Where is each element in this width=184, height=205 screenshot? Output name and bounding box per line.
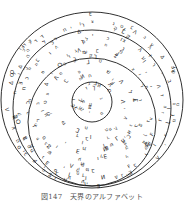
svg-text:ד: ד [32, 38, 38, 44]
svg-text:ⴷ: ⴷ [156, 84, 162, 89]
svg-text:נ: נ [128, 123, 133, 127]
svg-text:Ⴈ: Ⴈ [94, 54, 97, 60]
svg-text:ⴷ: ⴷ [132, 28, 139, 35]
svg-text:ח: ח [89, 102, 92, 107]
svg-text:ס: ס [15, 144, 22, 151]
svg-text:ה: ה [84, 181, 88, 187]
svg-text:כ: כ [24, 101, 30, 104]
svg-text:י: י [63, 164, 66, 170]
svg-text:ד: ד [81, 172, 85, 178]
svg-text:ל: ל [85, 36, 89, 42]
svg-text:ב: ב [142, 34, 147, 40]
svg-text:ח: ח [88, 72, 92, 78]
svg-text:ל: ל [99, 153, 103, 159]
svg-text:מ: מ [172, 119, 178, 123]
svg-text:ל: ל [124, 154, 129, 160]
svg-text:ו: ו [54, 144, 59, 150]
svg-text:י: י [69, 24, 72, 30]
figure-caption: 図147 天界のアルファベット [0, 191, 184, 201]
svg-text:ח: ח [104, 42, 108, 48]
svg-text:ד: ד [106, 135, 111, 142]
celestial-alphabet-diagram: יⵎⴷטצחכממיℲהΔצעוⵓבסⵓⵔפיⵎגוצלבה⅃ⵏנתⵍⵍɅעⵏⴹ… [0, 0, 184, 190]
svg-text:Δ: Δ [43, 81, 49, 86]
svg-text:Ʌ: Ʌ [53, 74, 60, 80]
svg-text:ק: ק [89, 53, 93, 58]
svg-text:ו: ו [97, 156, 99, 162]
svg-text:ב: ב [85, 136, 89, 142]
svg-text:ⴷ: ⴷ [118, 78, 125, 85]
svg-text:ר: ר [24, 111, 31, 115]
svg-text:ⵏ: ⵏ [81, 140, 83, 145]
svg-text:ו: ו [39, 110, 45, 113]
svg-text:ⵏ: ⵏ [90, 134, 92, 140]
svg-text:ⵎ: ⵎ [133, 98, 139, 102]
svg-text:ⴺ: ⴺ [75, 148, 80, 155]
svg-text:ⴷ: ⴷ [154, 155, 160, 161]
svg-text:ⴷ: ⴷ [123, 116, 129, 121]
svg-text:כ: כ [106, 35, 110, 42]
svg-text:ⵓ: ⵓ [22, 135, 29, 141]
svg-text:ב: ב [167, 79, 174, 84]
svg-text:ו: ו [138, 72, 143, 76]
svg-text:⅃: ⅃ [157, 118, 162, 122]
svg-text:ק: ק [123, 144, 130, 152]
svg-text:ו: ו [70, 99, 76, 101]
svg-text:ⵎ: ⵎ [35, 57, 41, 62]
svg-text:Ⴈ: Ⴈ [142, 133, 147, 137]
svg-text:ה: ה [33, 122, 39, 127]
svg-text:י: י [163, 143, 168, 146]
svg-text:ח: ח [62, 26, 68, 33]
svg-text:ל: ל [35, 118, 41, 123]
svg-text:ⵎ: ⵎ [96, 48, 99, 53]
svg-text:Ʌ: Ʌ [54, 44, 59, 50]
svg-text:ע: ע [84, 49, 88, 54]
svg-text:י: י [92, 32, 93, 38]
svg-text:ל: ל [127, 90, 134, 94]
svg-text:Ⴈ: Ⴈ [92, 85, 95, 91]
svg-text:ⵎ: ⵎ [121, 28, 127, 35]
svg-text:ו: ו [47, 50, 52, 55]
svg-text:ג: ג [99, 97, 104, 100]
alphabet-glyphs: יⵎⴷטצחכממיℲהΔצעוⵓבסⵓⵔפיⵎגוצלבה⅃ⵏנתⵍⵍɅעⵏⴹ… [4, 11, 181, 189]
svg-text:ד: ד [39, 33, 45, 40]
svg-text:מ: מ [40, 70, 46, 75]
svg-text:ז: ז [160, 112, 165, 115]
svg-text:ס: ס [99, 111, 105, 117]
svg-text:⅃: ⅃ [114, 135, 120, 142]
svg-text:ⴷ: ⴷ [147, 45, 153, 51]
svg-text:Ʌ: Ʌ [69, 162, 74, 169]
svg-text:Δ: Δ [114, 175, 118, 181]
svg-text:ר: ר [81, 22, 85, 28]
svg-text:ס: ס [40, 135, 47, 142]
svg-text:ⵏ: ⵏ [67, 171, 71, 177]
svg-text:ס: ס [58, 71, 64, 76]
svg-text:ⵏ: ⵏ [45, 111, 50, 114]
svg-text:⅃: ⅃ [86, 59, 90, 65]
svg-text:צ: צ [131, 67, 137, 72]
svg-text:ב: ב [132, 163, 138, 170]
svg-text:ⵎ: ⵎ [63, 78, 70, 84]
svg-text:ש: ש [106, 68, 112, 75]
svg-text:ⴺ: ⴺ [18, 81, 24, 85]
svg-text:י: י [143, 71, 148, 74]
svg-text:Ⅎ: Ⅎ [126, 163, 131, 169]
concentric-rings: יⵎⴷטצחכממיℲהΔצעוⵓבסⵓⵔפיⵎגוצלבה⅃ⵏנתⵍⵍɅעⵏⴹ… [0, 0, 184, 190]
svg-text:Ʌ: Ʌ [4, 107, 10, 112]
svg-text:ב: ב [90, 169, 94, 175]
svg-text:ו: ו [67, 53, 71, 59]
svg-text:ד: ד [160, 94, 165, 97]
svg-text:ח: ח [20, 86, 26, 91]
svg-text:כ: כ [23, 76, 30, 81]
svg-text:Δ: Δ [7, 80, 14, 85]
svg-text:ט: ט [41, 100, 47, 105]
svg-text:ח: ח [84, 125, 88, 131]
svg-text:ש: ש [170, 69, 177, 75]
svg-text:צ: צ [91, 19, 94, 24]
svg-text:י: י [63, 140, 67, 146]
svg-text:ב: ב [35, 102, 40, 105]
svg-text:ⴹ: ⴹ [97, 183, 101, 189]
svg-text:פ: פ [85, 167, 89, 173]
svg-text:ע: ע [81, 179, 85, 185]
svg-text:ט: ט [175, 103, 180, 106]
svg-text:צ: צ [45, 92, 50, 96]
